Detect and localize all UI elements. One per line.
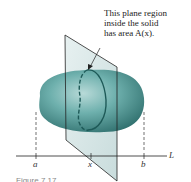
figure-caption: Figure 7.17 xyxy=(16,176,56,182)
axis-label-L: L xyxy=(169,150,174,160)
annotation-line-1: This plane region xyxy=(104,8,167,18)
annotation-line-2: inside the solid xyxy=(104,18,167,28)
solid-body xyxy=(39,70,144,133)
annotation-line-3: has area A(x). xyxy=(104,28,167,38)
annotation-text: This plane region inside the solid has a… xyxy=(104,8,167,38)
tick-label-b: b xyxy=(141,159,146,169)
tick-label-a: a xyxy=(33,159,38,169)
tick-label-x: x xyxy=(88,159,92,169)
